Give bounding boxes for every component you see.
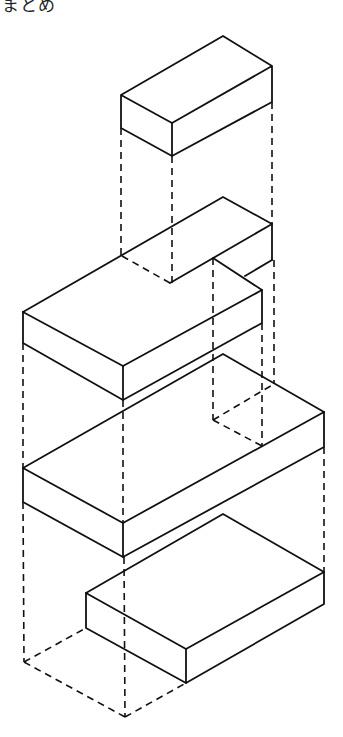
isometric-diagram — [0, 0, 343, 737]
top-block — [121, 36, 272, 156]
l-shaped-block — [23, 197, 272, 400]
projection-lines — [23, 102, 324, 717]
bottom-block — [86, 514, 324, 683]
middle-slab — [23, 354, 324, 557]
